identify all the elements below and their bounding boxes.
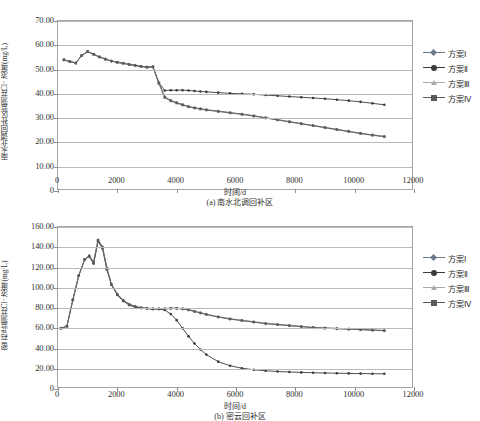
legend-item-1[interactable]: 方案Ⅰ [423,250,471,265]
series-marker [170,99,172,101]
series-marker [288,371,291,374]
series-marker [164,96,166,98]
series-marker [110,60,112,62]
series-canvas-a [58,21,414,191]
series-marker [288,95,291,98]
series-marker [181,89,184,92]
x-tick-label: 2000 [108,390,125,399]
y-tick-mark [54,94,58,95]
series-marker [116,61,118,63]
legend-label: 方案Ⅰ [448,252,466,264]
series-marker [359,132,361,134]
legend-item-4[interactable]: 方案Ⅳ [423,295,471,310]
series-marker [264,322,266,324]
series-marker [116,293,118,295]
series-marker [193,107,195,109]
series-marker [276,370,279,373]
series-marker [98,56,100,58]
plot-area-b [57,226,413,388]
series-marker [217,316,219,318]
y-axis-ticks-a: 010.0020.0030.0040.0050.0060.0070.00 [16,0,54,1]
legend-item-1[interactable]: 方案Ⅰ [423,45,471,60]
series-marker [276,323,278,325]
legend-item-2[interactable]: 方案Ⅱ [423,265,471,280]
series-marker [181,104,183,106]
legend-label: 方案Ⅱ [448,267,468,279]
series-marker [383,135,385,137]
legend-item-4[interactable]: 方案Ⅳ [423,90,471,105]
series-marker [312,97,315,100]
y-tick-label: 10.00 [35,161,54,170]
series-marker [205,313,207,315]
y-axis-ticks-b: 020.0040.0060.0080.00100.00120.00140.001… [16,212,54,213]
x-tick-label: 12000 [403,176,424,185]
y-tick-label: 140.00 [31,242,54,251]
series-marker [288,324,290,326]
y-axis-label-a: 南水北调回补区监测井Cl⁻浓度/(mg/L) [0,12,14,192]
x-tick-label: 6000 [227,176,244,185]
series-marker [253,321,255,323]
series-marker [371,372,374,375]
series-marker [229,318,231,320]
series-marker [69,60,71,62]
y-tick-mark [54,227,58,228]
y-tick-label: 60.00 [35,40,54,49]
series-line [64,52,384,105]
y-tick-mark [54,288,58,289]
series-marker [175,319,178,322]
series-marker [205,109,207,111]
y-tick-label: 40.00 [35,88,54,97]
y-tick-label: 40.00 [35,343,54,352]
x-tick-label: 6000 [227,390,244,399]
gridline [58,167,412,168]
series-marker [241,319,243,321]
legend-label: 方案Ⅳ [448,92,471,104]
legend-item-3[interactable]: 方案Ⅲ [423,75,471,90]
series-marker [128,303,130,305]
series-marker [336,98,339,101]
series-marker [217,360,220,363]
series-marker [300,96,303,99]
x-tick-label: 2000 [108,176,125,185]
series-marker [324,372,327,375]
gridline [58,118,412,119]
y-tick-mark [54,142,58,143]
series-marker [75,62,77,64]
series-marker [253,115,255,117]
gridline [58,288,412,289]
series-marker [86,50,88,52]
y-tick-mark [54,308,58,309]
legend-marker-icon [423,253,445,263]
series-marker [152,66,154,68]
series-marker [146,66,148,68]
legend-item-3[interactable]: 方案Ⅲ [423,280,471,295]
y-tick-mark [54,118,58,119]
y-tick-label: 20.00 [35,137,54,146]
y-tick-mark [54,167,58,168]
series-line [61,239,384,330]
series-marker [92,261,94,263]
series-marker [187,335,190,338]
series-marker [312,124,314,126]
series-marker [199,108,201,110]
y-tick-mark [54,268,58,269]
gridline [58,247,412,248]
series-marker [383,329,385,331]
series-marker [205,353,208,356]
legend-marker-icon [423,63,445,73]
y-axis-label-b: 密云2#监测井Cl⁻浓度/(mg/L) [0,220,14,392]
x-tick-label: 4000 [167,390,184,399]
x-tick-label: 8000 [286,176,303,185]
series-marker [229,112,231,114]
y-tick-mark [54,328,58,329]
series-marker [217,110,219,112]
series-marker [128,63,130,65]
chart-panel-b: 密云2#监测井Cl⁻浓度/(mg/L) 020.0040.0060.0080.0… [0,212,480,418]
y-tick-label: 30.00 [35,113,54,122]
legend-item-2[interactable]: 方案Ⅱ [423,60,471,75]
series-marker [348,130,350,132]
legend-label: 方案Ⅳ [448,297,471,309]
legend-marker-icon [423,298,445,308]
series-marker [83,258,85,260]
series-marker [312,371,315,374]
